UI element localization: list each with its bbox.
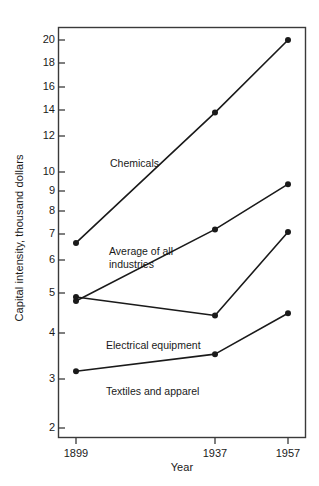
y-tick-label-6: 6: [33, 253, 55, 265]
data-point: [285, 37, 291, 43]
data-point: [212, 312, 218, 318]
y-tick-label-4: 4: [33, 326, 55, 338]
plot-area: [0, 0, 319, 486]
y-tick-label-3: 3: [33, 372, 55, 384]
y-tick-label-8: 8: [33, 204, 55, 216]
x-axis-title: Year: [58, 461, 306, 473]
y-axis-title: Capital intensity, thousand dollars: [13, 138, 25, 338]
data-point: [73, 240, 79, 246]
y-tick-label-10: 10: [33, 165, 55, 177]
capital-intensity-chart: 20 18 16 14 12 10 9 8 7 6 5 4 3 2 1899 1…: [0, 0, 319, 486]
y-tick-label-12: 12: [33, 129, 55, 141]
series-line-average-of-all-industries: [76, 184, 288, 301]
series-label-average-of-all-industries: Average of all industries: [109, 245, 173, 270]
series-label-electrical-equipment: Electrical equipment: [106, 339, 201, 352]
data-point: [212, 110, 218, 116]
y-tick-label-5: 5: [33, 286, 55, 298]
y-tick-label-9: 9: [33, 184, 55, 196]
y-tick-label-16: 16: [33, 80, 55, 92]
data-point: [285, 310, 291, 316]
data-point: [212, 351, 218, 357]
series-layer: [73, 37, 291, 374]
series-label-textiles-and-apparel: Textiles and apparel: [106, 385, 199, 398]
y-tick-label-18: 18: [33, 56, 55, 68]
data-point: [285, 229, 291, 235]
data-point: [73, 294, 79, 300]
x-tick-label-1957: 1957: [265, 447, 311, 459]
series-label-chemicals: Chemicals: [110, 157, 159, 170]
series-line-electrical-equipment: [76, 232, 288, 315]
y-tick-label-20: 20: [33, 33, 55, 45]
data-point: [212, 226, 218, 232]
plot-frame: [59, 28, 306, 438]
x-tick-label-1937: 1937: [192, 447, 238, 459]
series-line-chemicals: [76, 40, 288, 243]
data-point: [285, 181, 291, 187]
y-axis-ticks: [59, 40, 66, 428]
x-tick-label-1899: 1899: [53, 447, 99, 459]
data-point: [73, 368, 79, 374]
y-tick-label-2: 2: [33, 421, 55, 433]
y-tick-label-14: 14: [33, 103, 55, 115]
x-axis-ticks: [76, 438, 288, 445]
y-tick-label-7: 7: [33, 227, 55, 239]
